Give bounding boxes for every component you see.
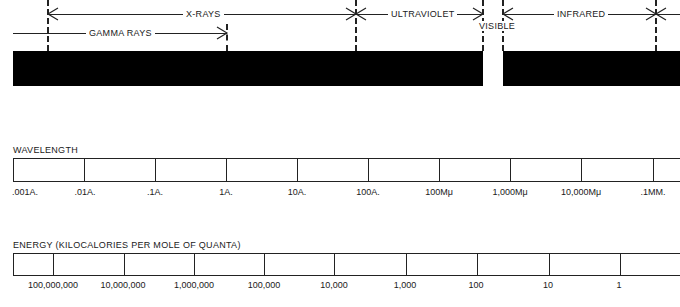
wavelength-tick-label: 1A. [219, 187, 233, 197]
wavelength-tick-label: 10A. [288, 187, 307, 197]
wavelength-tick-label: .1A. [147, 187, 163, 197]
wavelength-scale-box [13, 158, 680, 182]
wavelength-tick-label: 10,000Mμ [561, 187, 601, 197]
wavelength-tick [439, 159, 440, 181]
band-label-ultraviolet: ULTRAVIOLET [388, 9, 457, 19]
arrow-right-icon [217, 27, 227, 39]
wavelength-tick [84, 159, 85, 181]
wavelength-tick [368, 159, 369, 181]
energy-tick-label: 100,000 [248, 280, 281, 290]
wavelength-tick [653, 159, 654, 181]
energy-tick [264, 254, 265, 275]
wavelength-tick [155, 159, 156, 181]
energy-tick-label: 100,000,000 [28, 280, 78, 290]
energy-tick-label: 10,000,000 [100, 280, 145, 290]
wavelength-tick [297, 159, 298, 181]
spectrum-bar-long [503, 51, 680, 86]
wavelength-tick-label: .01A. [74, 187, 95, 197]
energy-tick-label: 100 [468, 280, 483, 290]
energy-tick [334, 254, 335, 275]
wavelength-tick-label: 100A. [356, 187, 380, 197]
energy-tick [406, 254, 407, 275]
arrow-left-icon [356, 8, 366, 20]
band-label-visible: VISIBLE [478, 21, 516, 31]
energy-scale-box [13, 253, 680, 276]
energy-tick-label: 1,000,000 [174, 280, 214, 290]
energy-tick-label: 10,000 [320, 280, 348, 290]
energy-tick [620, 254, 621, 275]
wavelength-tick-label: .1MM. [640, 187, 665, 197]
energy-tick-label: 10 [543, 280, 553, 290]
wavelength-title: WAVELENGTH [13, 145, 78, 155]
arrow-right-icon [473, 8, 483, 20]
wavelength-tick-label: 100Mμ [425, 187, 453, 197]
arrow-left-icon [48, 8, 58, 20]
arrow-left-icon [503, 8, 513, 20]
band-label-gamma-rays: GAMMA RAYS [86, 28, 155, 38]
band-label-xrays: X-RAYS [183, 9, 224, 19]
wavelength-tick [226, 159, 227, 181]
arrow-left-icon [656, 8, 666, 20]
arrow-right-icon [646, 8, 656, 20]
wavelength-tick [510, 159, 511, 181]
band-label-infrared: INFRARED [554, 9, 608, 19]
arrow-right-icon [346, 8, 356, 20]
energy-title: ENERGY (KILOCALORIES PER MOLE OF QUANTA) [13, 240, 241, 250]
energy-tick [194, 254, 195, 275]
wavelength-tick [581, 159, 582, 181]
energy-tick [549, 254, 550, 275]
wavelength-tick-label: 1,000Mμ [492, 187, 527, 197]
energy-tick [53, 254, 54, 275]
spectrum-bar-short [13, 51, 483, 86]
energy-tick-label: 1 [616, 280, 621, 290]
wavelength-tick-label: .001A. [12, 187, 38, 197]
energy-tick [124, 254, 125, 275]
energy-tick [477, 254, 478, 275]
energy-tick-label: 1,000 [394, 280, 417, 290]
